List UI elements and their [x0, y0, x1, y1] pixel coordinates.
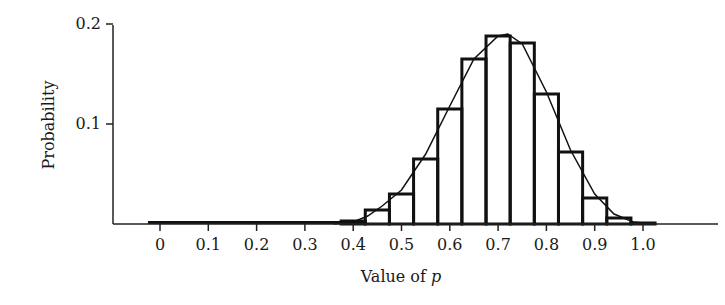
x-tick-label: 1.0 — [630, 235, 655, 254]
x-axis-title-prefix: Value of — [360, 267, 431, 286]
histogram-bars — [148, 36, 655, 224]
x-tick-label: 0.1 — [196, 235, 221, 254]
x-tick-label: 0.3 — [292, 235, 317, 254]
histogram-bar — [486, 36, 510, 224]
x-tick-label: 0.7 — [485, 235, 510, 254]
histogram-bar — [389, 194, 413, 224]
x-tick-label: 0.9 — [582, 235, 607, 254]
x-tick-label: 0.5 — [389, 235, 414, 254]
y-tick-label: 0.1 — [76, 114, 101, 133]
y-axis-title: Probability — [39, 81, 58, 170]
x-axis-ticks: 00.10.20.30.40.50.60.70.80.91.0 — [155, 224, 656, 254]
histogram-bar — [462, 59, 486, 224]
histogram-bar — [438, 109, 462, 224]
axes — [113, 25, 718, 224]
histogram-bar — [510, 43, 534, 224]
y-tick-label: 0.2 — [76, 14, 101, 33]
x-tick-label: 0.4 — [340, 235, 365, 254]
x-tick-label: 0.6 — [437, 235, 462, 254]
x-axis-title-variable: p — [431, 267, 441, 286]
histogram-chart: 00.10.20.30.40.50.60.70.80.91.0 0.10.2 P… — [0, 0, 725, 305]
histogram-bar — [414, 159, 438, 224]
x-tick-label: 0.2 — [244, 235, 269, 254]
histogram-bar — [365, 210, 389, 224]
y-axis-ticks: 0.10.2 — [76, 14, 113, 133]
x-tick-label: 0 — [155, 235, 165, 254]
x-tick-label: 0.8 — [534, 235, 559, 254]
histogram-bar — [558, 152, 582, 224]
density-curve — [334, 34, 653, 224]
x-axis-title: Value of p — [360, 267, 442, 286]
